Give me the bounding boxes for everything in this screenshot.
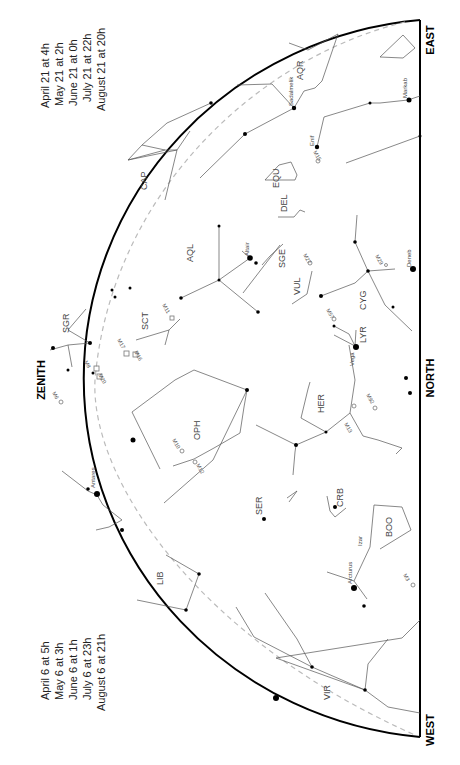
svg-text:April 21 at 4h: April 21 at 4h [39,43,51,108]
svg-text:M16: M16 [133,350,144,362]
svg-text:M6: M6 [51,391,60,401]
svg-text:M27: M27 [302,253,313,265]
svg-text:HER: HER [316,393,326,413]
svg-text:M10: M10 [171,438,182,450]
svg-text:June 6 at 1h: June 6 at 1h [67,639,79,700]
zenith-label: ZENITH [35,360,47,400]
svg-text:CYG: CYG [358,290,368,310]
deep-sky-labels: M15 M27 M57 M29 M11 M17 M16 M20 M8 M6 M1… [51,150,411,583]
svg-text:CAP: CAP [139,171,149,190]
svg-text:June 21 at 0h: June 21 at 0h [67,39,79,106]
sky-boundary-arc [84,20,420,737]
east-label: EAST [424,25,436,55]
svg-text:CRB: CRB [335,488,345,507]
svg-text:M12: M12 [195,463,206,475]
times-west: April 6 at 5h May 6 at 3h June 6 at 1h J… [39,634,107,711]
svg-text:M17: M17 [116,338,127,350]
svg-text:Izar: Izar [357,536,363,546]
svg-text:M92: M92 [365,393,376,405]
svg-text:Vega: Vega [349,352,355,366]
svg-text:August 21 at 20h: August 21 at 20h [95,28,107,111]
constellation-lines [50,34,420,713]
svg-text:July 21 at 22h: July 21 at 22h [81,34,93,103]
svg-text:VUL: VUL [292,277,302,295]
svg-text:M11: M11 [161,303,171,315]
svg-text:Altair: Altair [244,242,250,256]
svg-text:M13: M13 [343,422,354,434]
svg-text:M29: M29 [374,254,385,266]
svg-text:AQR: AQR [295,60,305,80]
svg-text:July 6 at 23h: July 6 at 23h [81,638,93,700]
svg-text:Sadalmelik: Sadalmelik [288,76,294,106]
svg-text:April 6 at 5h: April 6 at 5h [39,641,51,700]
west-label: WEST [424,714,436,746]
north-label: NORTH [424,358,436,397]
svg-text:August 6 at 21h: August 6 at 21h [95,634,107,711]
svg-text:DEL: DEL [279,194,289,212]
constellation-labels: AQR CAP EQU DEL AQL SGE VUL CYG LYR SCT … [61,60,394,700]
svg-text:BOO: BOO [384,517,394,537]
svg-text:M3: M3 [402,573,411,583]
svg-text:Arcturus: Arcturus [347,562,353,584]
svg-text:May 21 at 2h: May 21 at 2h [53,42,65,106]
svg-text:May 6 at 3h: May 6 at 3h [53,643,65,700]
svg-text:EQU: EQU [271,168,281,188]
svg-text:SER: SER [254,496,264,515]
svg-text:Markab: Markab [402,77,408,98]
svg-text:VIR: VIR [322,684,332,700]
svg-text:Deneb: Deneb [406,249,412,267]
stars [51,98,422,702]
deep-sky-objects [59,159,415,587]
svg-text:M57: M57 [325,308,336,320]
svg-text:Antares: Antares [90,467,96,488]
svg-text:SCT: SCT [140,311,150,330]
svg-text:SGE: SGE [277,249,287,268]
svg-text:AQL: AQL [185,244,195,262]
times-east: April 21 at 4h May 21 at 2h June 21 at 0… [39,28,107,111]
svg-text:OPH: OPH [192,420,202,440]
svg-text:SGR: SGR [61,313,71,333]
star-chart: ZENITH EAST NORTH WEST April 21 at 4h Ma… [0,0,460,765]
svg-text:LIB: LIB [155,571,165,585]
svg-text:LYR: LYR [358,326,368,343]
svg-text:Enif: Enif [309,135,315,146]
svg-text:M15: M15 [312,150,323,162]
